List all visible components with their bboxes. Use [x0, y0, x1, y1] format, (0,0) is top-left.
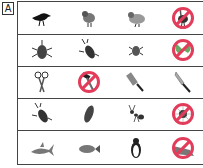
cell-butterfly[interactable] — [159, 34, 203, 66]
cell-crow[interactable] — [18, 2, 65, 34]
cleaver-icon — [123, 70, 149, 94]
cell-rhinoceros-beetle[interactable] — [18, 34, 65, 66]
cell-crocodile[interactable] — [159, 131, 203, 165]
cell-scissors[interactable] — [18, 66, 65, 98]
ant-icon — [123, 102, 149, 126]
row-water-animals — [18, 131, 203, 165]
cell-knife[interactable] — [159, 66, 203, 98]
cell-ant[interactable] — [112, 98, 159, 130]
pigeon-icon — [123, 6, 149, 30]
shark-icon — [29, 136, 55, 160]
cicada-icon — [76, 102, 102, 126]
cell-sparrow[interactable] — [65, 2, 112, 34]
crow-icon — [29, 6, 55, 30]
sparrow-icon — [76, 6, 102, 30]
cell-ostrich[interactable] — [159, 2, 203, 34]
cell-hammer[interactable] — [65, 66, 112, 98]
cross-mark-icon — [172, 137, 194, 159]
cell-cleaver[interactable] — [112, 66, 159, 98]
row-birds — [18, 2, 203, 35]
fish-icon — [76, 136, 102, 160]
cell-beetle[interactable] — [112, 34, 159, 66]
cell-spider[interactable] — [159, 98, 203, 130]
knife-icon — [170, 70, 196, 94]
cell-stag-beetle[interactable] — [65, 34, 112, 66]
scissors-icon — [29, 70, 55, 94]
stag-beetle-icon — [29, 102, 55, 126]
cross-mark-icon — [172, 103, 194, 125]
cross-mark-icon — [78, 71, 100, 93]
cross-mark-icon — [172, 7, 194, 29]
beetle-icon — [123, 38, 149, 62]
cross-mark-icon — [172, 39, 194, 61]
rhinoceros-beetle-icon — [29, 38, 55, 62]
cell-cicada[interactable] — [65, 98, 112, 130]
cell-fish[interactable] — [65, 131, 112, 165]
cell-penguin[interactable] — [112, 131, 159, 165]
row-tools — [18, 66, 203, 99]
row-insects — [18, 34, 203, 67]
row-bugs — [18, 98, 203, 131]
stag-beetle-icon — [76, 38, 102, 62]
odd-one-out-grid — [17, 1, 203, 165]
penguin-icon — [123, 136, 149, 160]
cell-shark[interactable] — [18, 131, 65, 165]
section-label: A — [2, 2, 14, 15]
cell-pigeon[interactable] — [112, 2, 159, 34]
cell-stag-beetle-2[interactable] — [18, 98, 65, 130]
